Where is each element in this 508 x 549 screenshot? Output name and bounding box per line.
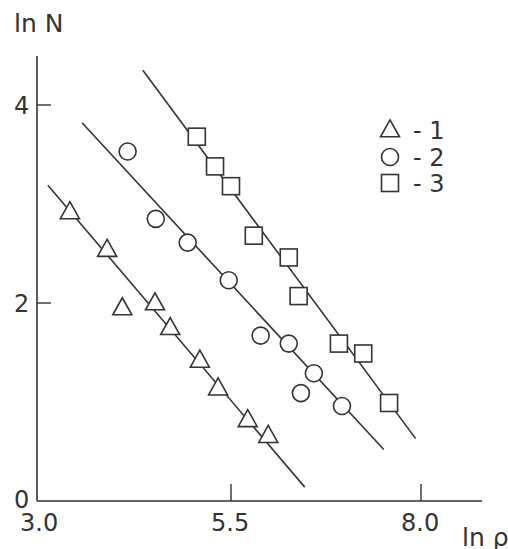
circle-marker: [179, 234, 196, 251]
circle-marker: [119, 143, 136, 160]
circle-marker: [252, 327, 269, 344]
legend-label-3: - 3: [413, 170, 445, 198]
legend-label-2: - 2: [413, 144, 445, 172]
square-marker: [223, 178, 240, 195]
triangle-marker: [259, 425, 278, 442]
square-marker: [381, 394, 398, 411]
square-marker: [207, 158, 224, 175]
y-tick-label: 4: [14, 92, 29, 120]
square-marker: [290, 288, 307, 305]
circle-marker: [305, 365, 322, 382]
legend-label-1: - 1: [413, 117, 445, 145]
triangle-marker: [209, 378, 228, 395]
square-marker: [245, 227, 262, 244]
triangle-marker: [113, 298, 132, 315]
y-tick-label: 0: [14, 486, 29, 514]
x-tick-label: 8.0: [401, 509, 439, 537]
legend-circle-icon: [382, 149, 399, 166]
square-marker: [330, 335, 347, 352]
y-tick-label: 2: [14, 290, 29, 318]
circle-marker: [220, 272, 237, 289]
x-axis-label: ln ρ: [462, 523, 508, 549]
triangle-marker: [146, 293, 165, 310]
x-tick-label: 5.5: [211, 509, 249, 537]
square-marker: [355, 345, 372, 362]
legend: - 1- 2- 3: [381, 117, 445, 198]
square-marker: [188, 128, 205, 145]
fit-line-3: [143, 70, 416, 438]
circle-marker: [333, 397, 350, 414]
circle-marker: [280, 335, 297, 352]
data-markers: [60, 128, 397, 442]
legend-square-icon: [382, 175, 399, 192]
ticks: [37, 105, 421, 501]
y-axis-label: ln N: [14, 9, 63, 38]
chart: 3.05.58.0024 ln N ln ρ - 1- 2- 3: [0, 0, 508, 549]
tick-labels: 3.05.58.0024: [14, 92, 439, 537]
circle-marker: [292, 385, 309, 402]
circle-marker: [147, 210, 164, 227]
legend-triangle-icon: [381, 120, 400, 137]
square-marker: [280, 249, 297, 266]
triangle-marker: [190, 350, 209, 367]
